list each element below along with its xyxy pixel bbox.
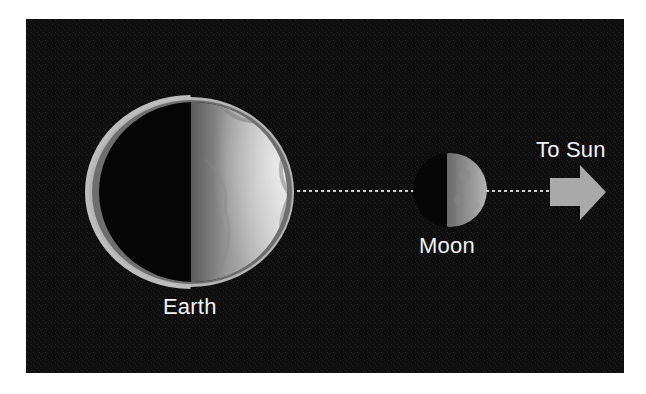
earth-label: Earth xyxy=(163,296,217,318)
moon-label: Moon xyxy=(419,235,475,257)
to-sun-label: To Sun xyxy=(536,139,606,161)
diagram-canvas xyxy=(0,0,646,394)
